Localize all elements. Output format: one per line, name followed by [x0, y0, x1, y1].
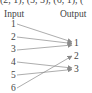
mapping-arrows — [0, 0, 92, 93]
arrow-4-to-3 — [17, 62, 72, 68]
arrow-1-to-1 — [17, 24, 72, 42]
arrow-3-to-1 — [17, 45, 72, 50]
arrow-6-to-2 — [17, 56, 72, 88]
arrow-2-to-1 — [17, 37, 72, 44]
